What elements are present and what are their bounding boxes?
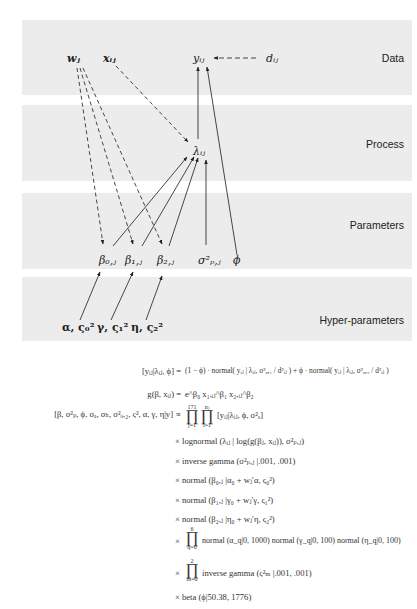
prod-inner: nⱼ ∏ i=1 [200,404,214,428]
node-hyper-eta: η, ς₂² [131,322,163,333]
node-beta1: β₁,ⱼ [125,255,142,266]
node-w: wⱼ [67,53,80,64]
eq-process-model-rhs: e^β₀ x₁,ᵢⱼ^β₁ x₂,ᵢⱼ^β₂ [185,390,254,399]
node-y: yᵢⱼ [193,53,204,64]
eq-term-beta: × beta (ϕ|50.38, 1776) [175,593,251,602]
node-beta2: β₂,ⱼ [157,255,174,266]
node-hyper-alpha: α, ς₀² [62,322,94,333]
eq-term-normal-beta2: × normal (β₂,ⱼ |η₀ + wⱼ′η, ς₂²) [175,515,275,524]
eq-prod-q: × 6 ∏ q=0 normal (α_q|0, 1000) normal (γ… [175,526,415,554]
node-d: dᵢⱼ [266,53,278,64]
eq-term-normal-beta1: × normal (β₁,ⱼ |γ₀ + wⱼ′γ, ς₁²) [175,496,273,505]
node-sigma-p: σ²ₚ,ⱼ [198,255,221,266]
eq-term-normal-beta0: × normal (β₀,ⱼ |α₀ + wⱼ′α, ς₀²) [175,476,275,485]
node-phi: ϕ [233,255,241,266]
prod-outer: 171 ∏ j=1 [185,404,199,428]
prod-q: 6 ∏ q=0 [185,526,199,550]
node-x: xᵢⱼ [103,53,116,64]
eq-posterior: [β, σ²ₚ, ϕ, σₐ, σₕ, σ²ₒ,₂, ς², α, γ, η|y… [0,404,417,430]
eq-term-lognormal: × lognormal (λᵢⱼ | log(g(βⱼ, xᵢⱼ)), σ²ₚ,… [175,437,304,446]
prod-m: 2 ∏ m=0 [185,558,199,582]
eq-posterior-rhs: [yᵢⱼ|λᵢⱼ, ϕ, σ²ₒ] [217,411,263,420]
eq-likelihood-lhs: [yᵢⱼ|λᵢⱼ, ϕ] = [142,367,181,376]
node-beta0: β₀,ⱼ [99,255,116,266]
node-lambda: λᵢⱼ [193,146,205,157]
eq-prod-m: × 2 ∏ m=0 inverse gamma (ς²ₘ |.001, .001… [175,558,415,586]
eq-posterior-lhs: [β, σ²ₚ, ϕ, σₐ, σₕ, σ²ₒ,₂, ς², α, γ, η|y… [54,410,181,419]
node-hyper-gamma: γ, ς₁² [97,322,128,333]
eq-term-inverse-gamma: × inverse gamma (σ²ₚ,ⱼ |.001, .001) [175,457,295,466]
eq-likelihood-rhs: (1 − ϕ) · normal( yᵢⱼ | λᵢⱼ, σ²ₒ,₁ / d²ᵢ… [185,367,389,374]
eq-process-model-lhs: g(β, xᵢⱼ) = [147,390,181,399]
